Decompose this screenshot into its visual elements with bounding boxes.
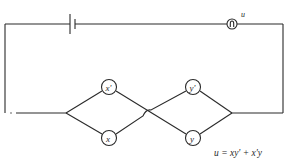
switch-x: x	[102, 131, 117, 146]
lamp-icon	[227, 19, 237, 29]
switch-y: y	[186, 131, 201, 146]
battery-icon	[70, 14, 75, 34]
svg-text:y': y'	[189, 83, 197, 93]
circuit-diagram: u x' x y' y u = xy' + x'y	[0, 0, 285, 163]
branch-right-lower	[200, 113, 232, 134]
branch-left-lower	[66, 113, 102, 134]
branch-right-upper	[200, 91, 232, 113]
boolean-equation: u = xy' + x'y	[214, 148, 263, 158]
svg-text:x: x	[105, 134, 110, 144]
switch-y-prime: y'	[186, 80, 201, 95]
branch-left-upper	[66, 91, 102, 113]
terminal-dot	[10, 112, 11, 113]
lamp-label: u	[241, 10, 245, 19]
switch-x-prime: x'	[102, 80, 117, 95]
svg-text:x': x'	[105, 83, 113, 93]
svg-text:y: y	[189, 134, 194, 144]
